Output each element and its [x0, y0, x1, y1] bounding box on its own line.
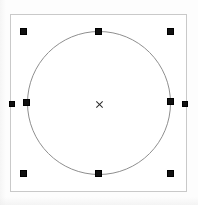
handle-bottom-right[interactable] [167, 170, 174, 177]
page-edge-shading-left [0, 0, 6, 205]
handle-middle-right[interactable] [167, 98, 174, 105]
handle-top-center[interactable] [95, 28, 102, 35]
drawing-canvas[interactable] [0, 0, 198, 205]
grip-right-edge[interactable] [182, 101, 188, 107]
handle-top-right[interactable] [167, 28, 174, 35]
page-edge-shading-bottom [0, 197, 198, 205]
handle-top-left[interactable] [20, 28, 27, 35]
circle-shape[interactable] [27, 31, 171, 175]
handle-middle-left[interactable] [23, 99, 30, 106]
grip-left-edge[interactable] [9, 101, 15, 107]
handle-bottom-center[interactable] [95, 170, 102, 177]
handle-bottom-left[interactable] [20, 170, 27, 177]
